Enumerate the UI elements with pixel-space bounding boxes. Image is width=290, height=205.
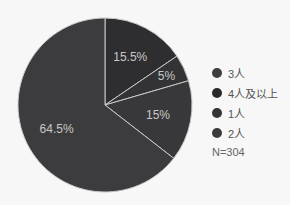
legend-label: 4人及以上 [228, 85, 278, 101]
pie-chart: 15.5%5%15%64.5% [0, 0, 210, 205]
slice-value-label: 15% [146, 108, 170, 122]
legend-label: 1人 [228, 105, 245, 121]
legend-item-2-people: 2人 [212, 123, 278, 143]
slice-value-label: 64.5% [40, 122, 74, 136]
legend: 3人 4人及以上 1人 2人 N=304 [212, 63, 278, 158]
sample-size-label: N=304 [212, 146, 278, 158]
legend-item-4-plus-people: 4人及以上 [212, 83, 278, 103]
legend-item-3-people: 3人 [212, 63, 278, 83]
slice-value-label: 15.5% [113, 50, 147, 64]
legend-dot-icon [212, 108, 222, 118]
legend-dot-icon [212, 88, 222, 98]
legend-item-1-person: 1人 [212, 103, 278, 123]
legend-dot-icon [212, 68, 222, 78]
legend-label: 3人 [228, 65, 245, 81]
slice-value-label: 5% [158, 69, 176, 83]
legend-dot-icon [212, 128, 222, 138]
legend-label: 2人 [228, 125, 245, 141]
